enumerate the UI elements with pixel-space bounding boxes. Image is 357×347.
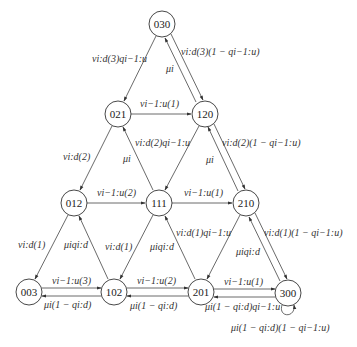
label-201-111: μiqi:d: [149, 241, 175, 252]
node-label-021: 021: [110, 108, 127, 120]
label-210-120: μi: [205, 154, 214, 165]
node-120: 120: [192, 101, 218, 127]
label-030-120: νi:d(3)(1 − qi−1:u): [181, 46, 260, 58]
edge-030-021: [124, 36, 156, 101]
node-label-003: 003: [21, 286, 38, 298]
edges: [35, 34, 294, 315]
label-030-021: νi:d(3)qi−1:u: [92, 53, 147, 65]
node-111: 111: [146, 190, 172, 216]
node-label-012: 012: [66, 197, 83, 209]
label-111-021: μi: [122, 153, 131, 164]
label-111-210: νi−1:u(1): [184, 187, 224, 199]
edge-030-120: [171, 34, 203, 100]
label-102-012: μiqi:d: [63, 239, 89, 250]
label-201-300: νi−1:u(1): [224, 276, 264, 288]
node-label-102: 102: [106, 286, 123, 298]
node-201: 201: [188, 279, 214, 305]
label-300-self-loop: μi(1 − qi:d)(1 − qi−1:u): [230, 322, 330, 334]
label-210-300: νi:d(1)(1 − qi−1:u): [264, 227, 343, 239]
label-012-003: νi:d(1): [18, 239, 46, 251]
node-102: 102: [101, 279, 127, 305]
label-102-003: μi(1 − qi:d): [43, 299, 92, 311]
label-300-201: μi(1 − qi:d)qi−1:u: [204, 301, 280, 313]
node-021: 021: [105, 101, 131, 127]
node-030: 030: [149, 11, 175, 37]
node-003: 003: [16, 279, 42, 305]
edge-120-210: [214, 124, 245, 189]
node-012: 012: [61, 190, 87, 216]
node-label-201: 201: [193, 286, 210, 298]
label-021-120: νi−1:u(1): [140, 98, 180, 110]
node-label-120: 120: [197, 108, 214, 120]
label-012-111: νi−1:u(2): [97, 187, 137, 199]
node-label-300: 300: [280, 287, 297, 299]
label-102-201: νi−1:u(2): [137, 275, 177, 287]
label-120-030: μi: [165, 63, 174, 74]
label-120-210: νi:d(2)(1 − qi−1:u): [222, 137, 301, 149]
node-label-111: 111: [151, 197, 167, 209]
label-120-111: νi:d(2)qi−1:u: [135, 137, 190, 149]
node-label-210: 210: [238, 197, 255, 209]
state-transition-diagram: νi:d(3)qi−1:u νi:d(3)(1 − qi−1:u) μi νi−…: [0, 0, 357, 347]
label-003-102: νi−1:u(3): [52, 275, 92, 287]
edge-300-self-loop: [281, 305, 294, 315]
node-300: 300: [275, 280, 301, 306]
label-300-210: μiqi:d: [235, 246, 261, 257]
label-210-201: νi:d(1)qi−1:u: [176, 227, 231, 239]
node-210: 210: [233, 190, 259, 216]
label-021-012: νi:d(2): [63, 151, 91, 163]
edge-120-111: [165, 126, 199, 190]
label-111-102: νi:d(1): [105, 241, 133, 253]
label-201-102: μi(1 − qi:d): [129, 300, 178, 312]
node-label-030: 030: [154, 18, 171, 30]
